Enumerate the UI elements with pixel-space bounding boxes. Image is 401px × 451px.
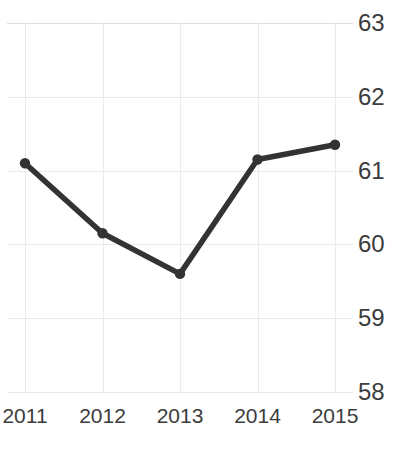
- chart-title: [0, 0, 401, 6]
- x-tick-label-2014: 2014: [223, 405, 293, 426]
- y-tick-label-59: 59: [358, 306, 398, 330]
- gridline-h-58: [7, 392, 353, 393]
- y-tick-label-63: 63: [358, 11, 398, 35]
- gridline-v-2011: [25, 23, 26, 392]
- y-tick-label-60: 60: [358, 232, 398, 256]
- x-tick-label-2011: 2011: [0, 405, 60, 426]
- gridline-v-2014: [258, 23, 259, 392]
- gridline-v-2012: [103, 23, 104, 392]
- x-tick-label-2013: 2013: [145, 405, 215, 426]
- gridline-v-2015: [335, 23, 336, 392]
- plot-area: [25, 23, 335, 392]
- x-tick-label-2015: 2015: [300, 405, 370, 426]
- line-chart: 585960616263 20112012201320142015: [0, 0, 401, 451]
- y-tick-label-58: 58: [358, 380, 398, 404]
- y-tick-label-61: 61: [358, 159, 398, 183]
- y-tick-label-62: 62: [358, 85, 398, 109]
- gridline-v-2013: [180, 23, 181, 392]
- x-tick-label-2012: 2012: [68, 405, 138, 426]
